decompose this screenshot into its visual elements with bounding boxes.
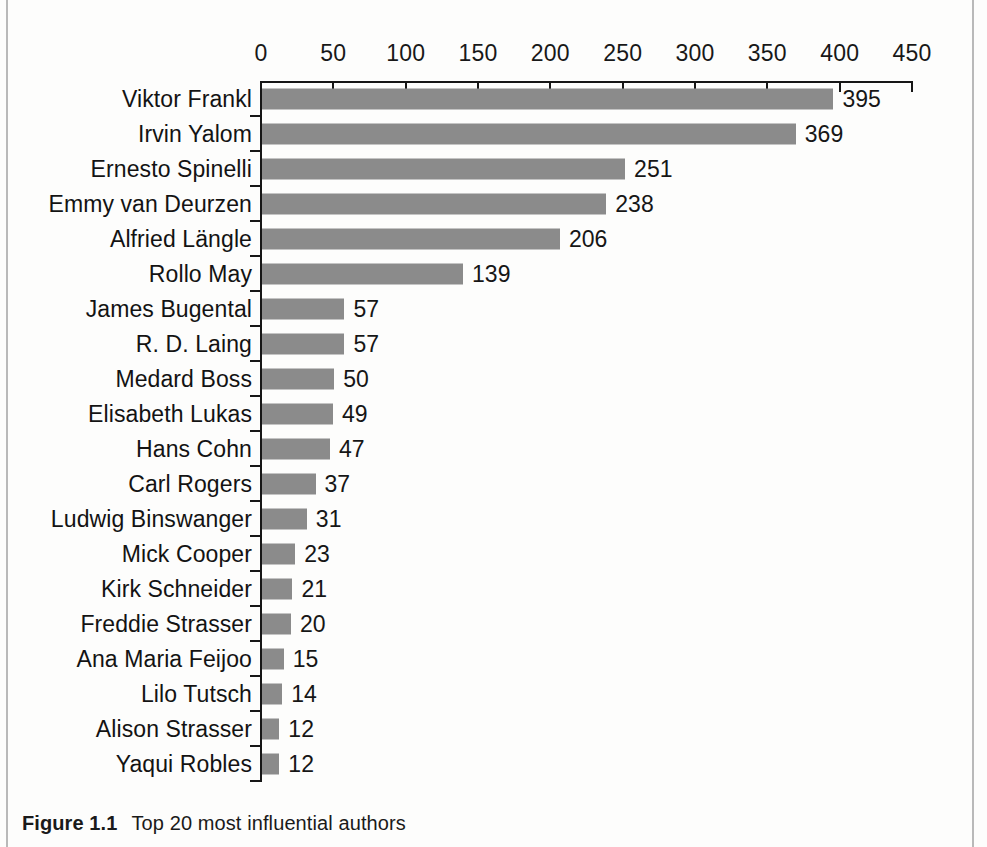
bar-value-label: 21 (301, 575, 327, 602)
bar-row: Lilo Tutsch14 (0, 676, 987, 711)
bar-row: Rollo May139 (0, 256, 987, 291)
bar (262, 683, 282, 704)
bar-value-label: 50 (343, 365, 369, 392)
x-tick-label: 300 (676, 40, 715, 67)
figure-caption-text: Top 20 most influential authors (131, 812, 405, 834)
bar-value-label: 15 (293, 645, 319, 672)
bar (262, 718, 279, 739)
x-tick-label: 0 (255, 40, 268, 67)
x-tick-label: 50 (320, 40, 346, 67)
x-tick-label: 100 (386, 40, 425, 67)
category-label: Mick Cooper (122, 540, 252, 567)
bar-row: Hans Cohn47 (0, 431, 987, 466)
bar (262, 473, 316, 494)
category-label: Viktor Frankl (122, 85, 252, 112)
figure-caption-label: Figure 1.1 (22, 812, 117, 834)
bar (262, 158, 625, 179)
bar (262, 648, 284, 669)
bar-row: Alison Strasser12 (0, 711, 987, 746)
category-label: Medard Boss (115, 365, 252, 392)
bar-value-label: 251 (634, 155, 672, 182)
category-label: Elisabeth Lukas (88, 400, 252, 427)
bar (262, 613, 291, 634)
bar (262, 228, 560, 249)
bar-value-label: 12 (288, 750, 314, 777)
x-tick-label: 200 (531, 40, 570, 67)
bar-row: Irvin Yalom369 (0, 116, 987, 151)
bar-value-label: 369 (805, 120, 843, 147)
bar-value-label: 395 (842, 85, 880, 112)
category-label: R. D. Laing (136, 330, 252, 357)
bar (262, 578, 292, 599)
bar (262, 193, 606, 214)
bar-row: James Bugental57 (0, 291, 987, 326)
x-tick-label: 250 (603, 40, 642, 67)
x-tick-label: 350 (748, 40, 787, 67)
bar-row: Alfried Längle206 (0, 221, 987, 256)
category-label: Lilo Tutsch (141, 680, 252, 707)
category-label: James Bugental (86, 295, 252, 322)
bar-row: Elisabeth Lukas49 (0, 396, 987, 431)
bar (262, 298, 344, 319)
category-label: Alfried Längle (110, 225, 252, 252)
category-label: Freddie Strasser (80, 610, 252, 637)
bar-value-label: 47 (339, 435, 365, 462)
bar-row: Kirk Schneider21 (0, 571, 987, 606)
bar-value-label: 31 (316, 505, 342, 532)
bar-row: Carl Rogers37 (0, 466, 987, 501)
category-label: Ludwig Binswanger (51, 505, 252, 532)
category-label: Carl Rogers (128, 470, 252, 497)
bar (262, 263, 463, 284)
bar (262, 123, 796, 144)
bar (262, 333, 344, 354)
bar-row: Emmy van Deurzen238 (0, 186, 987, 221)
bar-value-label: 139 (472, 260, 510, 287)
category-label: Rollo May (149, 260, 252, 287)
bar (262, 368, 334, 389)
category-label: Irvin Yalom (138, 120, 252, 147)
bar-value-label: 49 (342, 400, 368, 427)
bar-value-label: 12 (288, 715, 314, 742)
bar (262, 403, 333, 424)
x-tick-label: 150 (459, 40, 498, 67)
category-label: Hans Cohn (136, 435, 252, 462)
bar-row: Ludwig Binswanger31 (0, 501, 987, 536)
bar (262, 543, 295, 564)
bar-row: Viktor Frankl395 (0, 81, 987, 116)
bar-value-label: 57 (353, 295, 379, 322)
x-tick-label: 400 (820, 40, 859, 67)
category-label: Yaqui Robles (116, 750, 252, 777)
bar-value-label: 20 (300, 610, 326, 637)
bar (262, 508, 307, 529)
bar-value-label: 37 (325, 470, 351, 497)
bar (262, 88, 833, 109)
bar-row: Ernesto Spinelli251 (0, 151, 987, 186)
bar-value-label: 23 (304, 540, 330, 567)
bar-value-label: 206 (569, 225, 607, 252)
category-label: Alison Strasser (96, 715, 252, 742)
category-label: Kirk Schneider (101, 575, 252, 602)
bar-row: Mick Cooper23 (0, 536, 987, 571)
category-label: Emmy van Deurzen (48, 190, 252, 217)
bar-chart: 050100150200250300350400450 Viktor Frank… (0, 0, 987, 800)
bar-row: Freddie Strasser20 (0, 606, 987, 641)
bar-row: Ana Maria Feijoo15 (0, 641, 987, 676)
bar-value-label: 238 (615, 190, 653, 217)
category-label: Ernesto Spinelli (91, 155, 252, 182)
bar-row: R. D. Laing57 (0, 326, 987, 361)
bar (262, 753, 279, 774)
bar-row: Medard Boss50 (0, 361, 987, 396)
bar-row: Yaqui Robles12 (0, 746, 987, 781)
bar-value-label: 57 (353, 330, 379, 357)
x-tick-label: 450 (893, 40, 932, 67)
bar-value-label: 14 (291, 680, 317, 707)
figure-page: 050100150200250300350400450 Viktor Frank… (0, 0, 987, 847)
bar (262, 438, 330, 459)
figure-caption: Figure 1.1Top 20 most influential author… (22, 812, 406, 835)
category-label: Ana Maria Feijoo (77, 645, 252, 672)
